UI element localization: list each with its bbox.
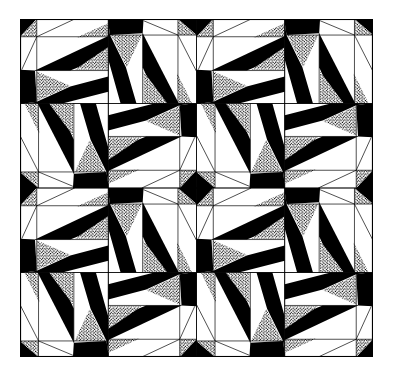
- quilt-pattern: [20, 19, 373, 357]
